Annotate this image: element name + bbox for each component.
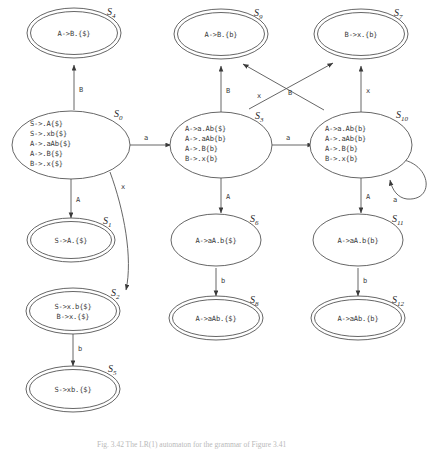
svg-text:A->a.Ab{b}: A->a.Ab{b} bbox=[325, 124, 366, 133]
svg-text:A->.B{b}: A->.B{b} bbox=[185, 144, 218, 153]
state-name-S0: S0 bbox=[114, 108, 123, 122]
state-items-S8: A->aAb.{$} bbox=[195, 314, 236, 323]
state-node-S2[interactable]: S->x.b{$} B->x.{$} S2 bbox=[26, 287, 120, 334]
state-node-S0[interactable]: S->.A{$} S->.xb{$} A->.aAb{$} A->.B{$} B… bbox=[12, 108, 130, 179]
state-node-S12[interactable]: A->aAb.{b} S12 bbox=[311, 294, 405, 340]
state-node-S4[interactable]: A->B.{$} S4 bbox=[27, 6, 121, 58]
edge-S3-S7: x bbox=[249, 63, 333, 109]
state-items-S12: A->aAb.{b} bbox=[337, 314, 378, 323]
svg-text:S->x.b{$}: S->x.b{$} bbox=[54, 302, 91, 311]
state-node-S5[interactable]: S->xb.{$} S5 bbox=[26, 363, 120, 412]
edge-label-S0-S3: a bbox=[144, 134, 148, 142]
svg-text:A->.aAb{b}: A->.aAb{b} bbox=[185, 134, 226, 143]
edge-S10-S9: B bbox=[243, 64, 324, 110]
state-node-S8[interactable]: A->aAb.{$} S8 bbox=[169, 294, 263, 340]
edge-label-S2-S5: b bbox=[78, 345, 82, 353]
state-items-S6: A->aA.b{$} bbox=[195, 236, 236, 245]
edge-S10-S7: x bbox=[361, 66, 370, 112]
edge-S11-S12: b bbox=[358, 268, 367, 296]
svg-text:B->.x{$}: B->.x{$} bbox=[30, 159, 63, 168]
state-node-S6[interactable]: A->aA.b{$} S6 bbox=[171, 213, 261, 266]
edge-label-S3-S10: a bbox=[286, 134, 290, 142]
edge-label-S10-S11: A bbox=[366, 193, 371, 201]
edge-S2-S5: b bbox=[73, 332, 82, 366]
edge-S10-S11: A bbox=[361, 178, 371, 213]
state-node-S1[interactable]: S->A.{$} S1 bbox=[27, 215, 115, 262]
svg-text:A->.B{b}: A->.B{b} bbox=[325, 144, 358, 153]
svg-text:B->.x{b}: B->.x{b} bbox=[325, 154, 358, 163]
edge-S0-S3: a bbox=[130, 134, 171, 145]
state-items-S1: S->A.{$} bbox=[55, 236, 88, 245]
state-items-S5: S->xb.{$} bbox=[54, 385, 91, 394]
edge-label-S6-S8: b bbox=[221, 277, 225, 285]
svg-text:A->.B{$}: A->.B{$} bbox=[30, 149, 63, 158]
edge-label-S10-self: a bbox=[393, 196, 397, 204]
edge-label-S3-S6: A bbox=[226, 193, 231, 201]
svg-text:A->.aAb{$}: A->.aAb{$} bbox=[30, 139, 71, 148]
edge-label-S3-S7: x bbox=[257, 92, 261, 100]
state-items-S7: B->x.{b} bbox=[345, 30, 378, 39]
edge-S3-S10: a bbox=[272, 134, 313, 145]
edge-label-S10-S9: B bbox=[288, 89, 292, 97]
state-node-S3[interactable]: A->a.Ab{$} A->.aAb{b} A->.B{b} B->.x{b} … bbox=[170, 110, 272, 178]
svg-text:A->a.Ab{$}: A->a.Ab{$} bbox=[185, 124, 226, 133]
edge-label-S11-S12: b bbox=[363, 277, 367, 285]
edge-label-S3-S9: B bbox=[226, 87, 230, 95]
state-node-S11[interactable]: A->aA.b{b} S11 bbox=[313, 213, 403, 266]
svg-text:A->.aAb{b}: A->.aAb{b} bbox=[325, 134, 366, 143]
edge-S3-S6: A bbox=[221, 178, 231, 213]
state-node-S9[interactable]: A->B.{b} S9 bbox=[174, 7, 268, 59]
svg-text:S->.xb{$}: S->.xb{$} bbox=[30, 129, 67, 138]
state-items-S2: S->x.b{$} B->x.{$} bbox=[54, 302, 91, 321]
state-items-S11: A->aA.b{b} bbox=[337, 236, 378, 245]
edge-S3-S9: B bbox=[221, 66, 230, 112]
edge-S0-S4: B bbox=[74, 65, 83, 110]
edge-S6-S8: b bbox=[216, 268, 225, 296]
state-node-S10[interactable]: A->a.Ab{b} A->.aAb{b} A->.B{b} B->.x{b} … bbox=[310, 109, 412, 178]
edge-S0-S2: x bbox=[110, 172, 128, 290]
state-items-S4: A->B.{$} bbox=[58, 29, 91, 38]
edge-label-S0-S1: A bbox=[76, 196, 81, 204]
svg-text:B->x.{$}: B->x.{$} bbox=[57, 312, 90, 321]
state-items-S9: A->B.{b} bbox=[205, 30, 238, 39]
edge-S0-S1: A bbox=[71, 178, 81, 218]
automaton-diagram: B A x a B x A bbox=[0, 0, 445, 449]
edge-label-S10-S7: x bbox=[366, 87, 370, 95]
state-name-S10: S10 bbox=[396, 109, 409, 123]
svg-text:B->.x{b}: B->.x{b} bbox=[185, 154, 218, 163]
lr1-automaton-figure: B A x a B x A bbox=[0, 0, 445, 449]
state-node-S7[interactable]: B->x.{b} S7 bbox=[314, 7, 408, 59]
svg-text:S->.A{$}: S->.A{$} bbox=[30, 119, 63, 128]
figure-caption: Fig. 3.42 The LR(1) automaton for the gr… bbox=[97, 440, 286, 449]
edge-label-S0-S2: x bbox=[121, 183, 125, 191]
edge-label-S0-S4: B bbox=[79, 86, 83, 94]
